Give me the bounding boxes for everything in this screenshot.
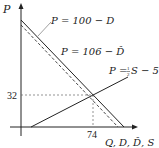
- svg-text:P =: P =: [108, 65, 127, 76]
- supply-frac-num: 1: [127, 66, 130, 71]
- supply-demand-chart: P P = 100 − D P = 106 − D̂ P = 1 2 S − 5…: [0, 0, 159, 148]
- y-axis-label: P: [2, 3, 11, 16]
- demand-hat-label: P = 106 − D̂: [60, 46, 124, 57]
- x-tick-label: 74: [87, 129, 97, 140]
- x-axis-arrow-icon: [132, 125, 138, 130]
- demand-label-leader: [38, 22, 51, 36]
- supply-label: P = 1 2 S − 5: [108, 65, 159, 77]
- supply-line: [31, 77, 128, 127]
- demand-hat-line: [21, 25, 118, 127]
- demand-label: P = 100 − D: [50, 15, 114, 26]
- supply-frac-den: 2: [127, 72, 130, 77]
- y-tick-label: 32: [7, 90, 17, 101]
- svg-text:S − 5: S − 5: [131, 65, 159, 76]
- x-axis-label: Q, D, D̂, S: [105, 137, 154, 148]
- y-axis-arrow-icon: [19, 3, 24, 9]
